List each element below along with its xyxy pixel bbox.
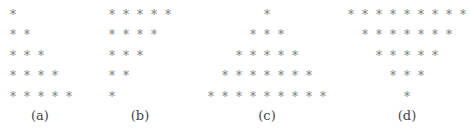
asterisk: * — [400, 8, 414, 22]
star-row: *** — [246, 28, 288, 42]
star-row: *** — [105, 49, 147, 63]
asterisk: * — [414, 49, 428, 63]
asterisk: * — [288, 90, 302, 104]
asterisk: * — [344, 8, 358, 22]
asterisk: * — [316, 90, 330, 104]
asterisk: * — [20, 69, 34, 83]
asterisk: * — [372, 8, 386, 22]
asterisk: * — [218, 90, 232, 104]
star-row: ***** — [232, 49, 302, 63]
panel-label: (a) — [31, 108, 49, 123]
asterisk: * — [34, 69, 48, 83]
asterisk: * — [428, 28, 442, 42]
asterisk: * — [232, 90, 246, 104]
panel-label: (c) — [258, 108, 275, 123]
asterisk: * — [6, 28, 20, 42]
asterisk: * — [105, 49, 119, 63]
asterisk: * — [232, 69, 246, 83]
asterisk: * — [274, 28, 288, 42]
asterisk: * — [260, 28, 274, 42]
asterisk: * — [386, 8, 400, 22]
star-row: ********* — [344, 8, 470, 22]
asterisk: * — [260, 90, 274, 104]
asterisk: * — [442, 28, 456, 42]
asterisk: * — [386, 28, 400, 42]
asterisk: * — [400, 90, 414, 104]
asterisk: * — [372, 49, 386, 63]
asterisk: * — [133, 28, 147, 42]
asterisk: * — [48, 69, 62, 83]
star-row: **** — [105, 28, 161, 42]
asterisk: * — [414, 28, 428, 42]
asterisk: * — [119, 28, 133, 42]
star-row: * — [400, 90, 414, 104]
asterisk: * — [358, 28, 372, 42]
asterisk: * — [358, 8, 372, 22]
asterisk: * — [400, 69, 414, 83]
asterisk: * — [48, 90, 62, 104]
star-row: ** — [6, 28, 34, 42]
asterisk: * — [34, 49, 48, 63]
asterisk: * — [428, 8, 442, 22]
asterisk: * — [246, 28, 260, 42]
asterisk: * — [119, 49, 133, 63]
asterisk: * — [147, 28, 161, 42]
asterisk: * — [274, 69, 288, 83]
asterisk: * — [20, 49, 34, 63]
asterisk: * — [133, 49, 147, 63]
asterisk: * — [456, 8, 470, 22]
asterisk: * — [260, 49, 274, 63]
asterisk: * — [288, 49, 302, 63]
asterisk: * — [400, 28, 414, 42]
asterisk: * — [386, 69, 400, 83]
star-row: **** — [6, 69, 62, 83]
asterisk: * — [34, 90, 48, 104]
asterisk: * — [20, 28, 34, 42]
asterisk: * — [414, 69, 428, 83]
asterisk: * — [428, 49, 442, 63]
asterisk: * — [119, 8, 133, 22]
star-row: * — [260, 8, 274, 22]
asterisk: * — [246, 49, 260, 63]
asterisk: * — [260, 69, 274, 83]
star-row: *** — [386, 69, 428, 83]
asterisk: * — [372, 28, 386, 42]
asterisk: * — [147, 8, 161, 22]
asterisk: * — [246, 69, 260, 83]
star-row: * — [6, 8, 20, 22]
asterisk: * — [302, 69, 316, 83]
asterisk: * — [6, 8, 20, 22]
asterisk: * — [161, 8, 175, 22]
star-row: ***** — [372, 49, 442, 63]
star-row: ********* — [204, 90, 330, 104]
star-row: ** — [105, 69, 133, 83]
panel-label: (d) — [398, 108, 416, 123]
asterisk: * — [442, 8, 456, 22]
asterisk: * — [288, 69, 302, 83]
asterisk: * — [105, 90, 119, 104]
asterisk: * — [133, 8, 147, 22]
asterisk: * — [274, 90, 288, 104]
star-row: ******* — [218, 69, 316, 83]
star-row: ***** — [105, 8, 175, 22]
panel-label: (b) — [131, 108, 149, 123]
asterisk: * — [302, 90, 316, 104]
asterisk: * — [105, 8, 119, 22]
asterisk: * — [274, 49, 288, 63]
asterisk: * — [20, 90, 34, 104]
asterisk: * — [119, 69, 133, 83]
asterisk: * — [62, 90, 76, 104]
asterisk: * — [6, 90, 20, 104]
star-row: *** — [6, 49, 48, 63]
asterisk: * — [105, 28, 119, 42]
asterisk: * — [246, 90, 260, 104]
star-row: * — [105, 90, 119, 104]
asterisk: * — [6, 49, 20, 63]
asterisk: * — [414, 8, 428, 22]
asterisk: * — [400, 49, 414, 63]
star-row: ***** — [6, 90, 76, 104]
asterisk: * — [204, 90, 218, 104]
asterisk: * — [232, 49, 246, 63]
asterisk: * — [386, 49, 400, 63]
asterisk: * — [6, 69, 20, 83]
